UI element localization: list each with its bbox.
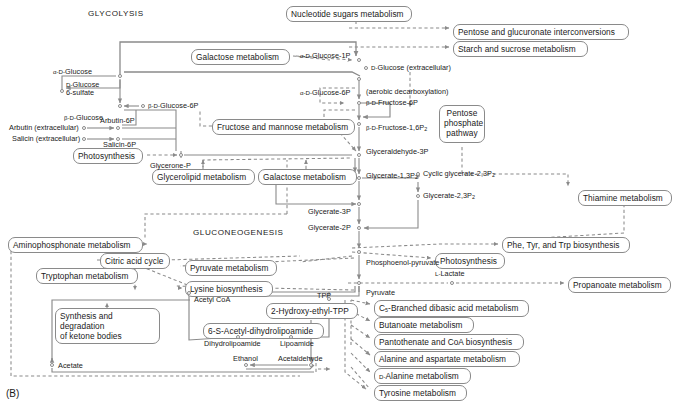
- compound-label-glycerate-2p: Glycerate-2P: [308, 224, 351, 232]
- compound-label-alpha-d-glucose-1p: α-D-Glucose-1P: [300, 52, 350, 60]
- pathway-box-phe-tyr-trp-biosynthesis[interactable]: Phe, Tyr, and Trp biosynthesis: [502, 237, 630, 253]
- pathway-box-photosynthesis-left[interactable]: Photosynthesis: [73, 148, 143, 164]
- pathway-box-synthesis-and-degradation-of-ketone-bodies[interactable]: Synthesis and degradationof ketone bodie…: [55, 308, 160, 344]
- compound-label-d-glucose-extracellular: D-Glucose (extracellular): [371, 64, 451, 72]
- compound-label-acetaldehyde: Acetaldehyde: [278, 355, 322, 363]
- caption-glycolysis: GLYCOLYSIS: [88, 9, 144, 18]
- pathway-box-pyruvate-metabolism[interactable]: Pyruvate metabolism: [185, 260, 277, 276]
- pathway-diagram-panel-b: GLYCOLYSIS GLUCONEOGENESIS (B) Nucleotid…: [0, 0, 677, 411]
- pathway-box-alanine-and-aspartate-metabolism[interactable]: Alanine and aspartate metabolism: [374, 351, 520, 367]
- compound-label-lipoamide: Lipoamide: [280, 340, 314, 348]
- pathway-box-nucleotide-sugars-metabolism[interactable]: Nucleotide sugars metabolism: [286, 6, 412, 22]
- compound-label-phosphoenol-pyruvate: Phosphoenol-pyruvate: [366, 259, 439, 267]
- pathway-box-citric-acid-cycle[interactable]: Citric acid cycle: [100, 253, 170, 269]
- pathway-box-galactose-metabolism-top[interactable]: Galactose metabolism: [191, 49, 290, 65]
- compound-label-cyclic-glycerate-23p2: Cyclic glycerate-2,3P2: [423, 170, 495, 178]
- pathway-box-galactose-metabolism-mid[interactable]: Galactose metabolism: [258, 169, 357, 185]
- compound-label-aerobic-decarboxylation: (aerobic decarboxylation): [366, 88, 448, 96]
- pathway-box-photosynthesis-mid[interactable]: Photosynthesis: [435, 253, 505, 269]
- compound-label-pyruvate: Pyruvate: [366, 289, 395, 297]
- compound-label-arbutin-6p: Arbutin-6P: [100, 117, 135, 125]
- compound-label-l-lactate: L-Lactate: [435, 270, 465, 278]
- pathway-box-fructose-and-mannose-metabolism[interactable]: Fructose and mannose metabolism: [212, 119, 355, 135]
- pathway-box-c5-branched-dibasic-acid-metabolism[interactable]: C5-Branched dibasic acid metabolism: [374, 300, 529, 317]
- compound-label-glycerate-13p2: Glycerate-1,3P2: [366, 172, 418, 180]
- compound-label-glyceraldehyde-3p: Glyceraldehyde-3P: [366, 148, 428, 156]
- pathway-box-thiamine-metabolism[interactable]: Thiamine metabolism: [578, 190, 672, 206]
- pathway-box-pentose-and-glucuronate-interconversions[interactable]: Pentose and glucuronate interconversions: [453, 24, 629, 40]
- compound-label-beta-d-fructose-16p2: β-D-Fructose-1,6P2: [366, 124, 427, 132]
- pathway-box-2-hydroxy-ethyl-tpp[interactable]: 2-Hydroxy-ethyl-TPP: [266, 303, 358, 319]
- caption-gluconeogenesis: GLUCONEOGENESIS: [193, 228, 284, 237]
- pathway-box-6-s-acetyl-dihydrolipoamide[interactable]: 6-S-Acetyl-dihydrolipoamide: [203, 323, 324, 339]
- compound-label-glycerone-p: Glycerone-P: [150, 162, 191, 170]
- compound-label-dihydrolipoamide: Dihydrolipoamide: [204, 340, 261, 348]
- compound-label-beta-d-glucose: β-D-Glucose: [64, 114, 103, 122]
- compound-label-alpha-d-glucose: α-D-Glucose: [53, 68, 92, 76]
- pathway-box-pantothenate-and-coa-biosynthesis[interactable]: Pantothenate and CoA biosynthesis: [374, 334, 524, 350]
- compound-label-beta-d-glucose-6p: β-D-Glucose-6P: [148, 102, 198, 110]
- compound-label-glycerate-3p: Glycerate-3P: [308, 208, 351, 216]
- pathway-box-tryptophan-metabolism[interactable]: Tryptophan metabolism: [36, 268, 138, 284]
- compound-label-salicin-6p: Salicin-6P: [103, 141, 136, 149]
- pathway-box-propanoate-metabolism[interactable]: Propanoate metabolism: [568, 277, 671, 293]
- pathway-box-starch-and-sucrose-metabolism[interactable]: Starch and sucrose metabolism: [453, 41, 588, 57]
- pathway-box-d-alanine-metabolism[interactable]: D-Alanine metabolism: [374, 368, 471, 384]
- compound-label-beta-d-fructose-6p: β-D-Fructose-6P: [366, 99, 418, 107]
- compound-label-acetyl-coa: Acetyl CoA: [194, 296, 230, 304]
- pathway-box-pentose-phosphate-pathway[interactable]: Pentosephosphatepathway: [439, 105, 485, 143]
- compound-label-arbutin-extracellular: Arbutin (extracellular): [9, 124, 79, 132]
- panel-label: (B): [6, 388, 19, 399]
- pathway-box-butanoate-metabolism[interactable]: Butanoate metabolism: [374, 317, 474, 333]
- compound-label-salicin-extracellular: Salicin (extracellular): [12, 135, 80, 143]
- compound-label-glycerate-23p2: Glycerate-2,3P2: [423, 192, 475, 200]
- pathway-box-aminophosphonate-metabolism[interactable]: Aminophosphonate metabolism: [8, 237, 143, 253]
- pathway-connector-layer: [0, 0, 677, 411]
- compound-label-d-glucose-6-sulfate: D-Glucose6-sulfate: [66, 81, 99, 98]
- pathway-box-tyrosine-metabolism[interactable]: Tyrosine metabolism: [374, 385, 467, 401]
- compound-label-alpha-d-glucose-6p: α-D-Glucose-6P: [300, 89, 350, 97]
- pathway-box-glycerolipid-metabolism[interactable]: Glycerolipid metabolism: [152, 169, 255, 185]
- compound-label-acetate: Acetate: [58, 362, 83, 370]
